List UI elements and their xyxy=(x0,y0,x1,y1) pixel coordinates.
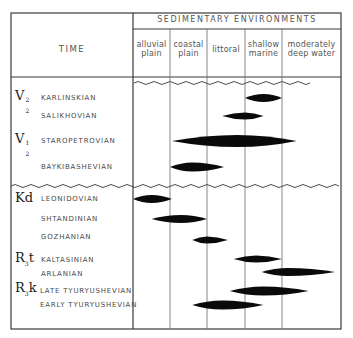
symbol-subscript: 2 xyxy=(25,150,29,157)
stage-karlinskian: KARLINSKIAN xyxy=(41,94,96,102)
symbol-letter: R xyxy=(15,250,25,265)
lens-salikhovian xyxy=(222,113,263,120)
column-header-alluvial-plain: alluvial plain xyxy=(133,40,170,58)
lens-gozhanian xyxy=(192,237,228,244)
unconformity-line-middle xyxy=(11,185,339,188)
column-header-line: marine xyxy=(245,49,282,58)
lens-early-tyuryushevian xyxy=(192,301,263,310)
symbol-superscript: 1 xyxy=(25,139,29,146)
stage-kaltasinian: KALTASINIAN xyxy=(41,256,94,264)
stage-staropetrovian: STAROPETROVIAN xyxy=(41,137,116,145)
column-header-line: coastal xyxy=(170,40,207,49)
stage-late-tyuryushevian: LATE TYURYUSHEVIAN xyxy=(40,287,132,295)
symbol-subscript: 2 xyxy=(25,107,29,114)
symbol-superscript: 2 xyxy=(25,96,29,103)
stage-baykibashevian: BAYKIBASHEVIAN xyxy=(41,163,113,171)
stage-early-tyuryushevian: EARLY TYURYUSHEVIAN xyxy=(40,301,137,309)
column-header-moderately-deep-water: moderately deep water xyxy=(282,40,341,58)
column-header-coastal-plain: coastal plain xyxy=(170,40,207,58)
symbol-letter: V xyxy=(15,88,24,103)
symbol-letter: Kd xyxy=(15,190,33,205)
lens-staropetrovian xyxy=(172,135,297,147)
column-dividers xyxy=(170,29,282,329)
lens-late-tyuryushevian xyxy=(230,287,309,296)
symbol-suffix: t xyxy=(29,250,34,265)
stage-salikhovian: SALIKHOVIAN xyxy=(41,112,97,120)
lens-baykibashevian xyxy=(170,163,224,172)
group-symbol-r3k: R3k xyxy=(15,280,37,297)
group-symbol-r3t: R3t xyxy=(15,250,34,267)
environments-heading: SEDIMENTARY ENVIRONMENTS xyxy=(133,15,341,24)
group-symbol-v2-2: V22 xyxy=(15,88,24,103)
group-symbol-v2-1: V12 xyxy=(15,131,24,146)
column-header-line: plain xyxy=(133,49,170,58)
symbol-letter: R xyxy=(15,280,25,295)
lens-arlanian xyxy=(262,268,335,276)
stage-gozhanian: GOZHANIAN xyxy=(41,233,91,241)
unconformity-line-top xyxy=(134,82,310,85)
symbol-letter: V xyxy=(15,131,24,146)
environment-lenses xyxy=(133,94,335,310)
stage-arlanian: ARLANIAN xyxy=(41,270,83,278)
column-header-shallow-marine: shallow marine xyxy=(245,40,282,58)
column-header-line: moderately xyxy=(282,40,341,49)
column-header-line: littoral xyxy=(207,45,245,54)
column-header-line: plain xyxy=(170,49,207,58)
stage-leonidovian: LEONIDOVIAN xyxy=(41,195,99,203)
group-symbol-kd: Kd xyxy=(15,190,33,205)
stage-shtandinian: SHTANDINIAN xyxy=(41,215,98,223)
lens-kaltasinian xyxy=(234,256,282,263)
time-heading: TIME xyxy=(11,44,133,54)
lens-leonidovian xyxy=(133,195,172,203)
column-header-line: deep water xyxy=(282,49,341,58)
column-header-line: alluvial xyxy=(133,40,170,49)
symbol-suffix: k xyxy=(29,280,37,295)
column-header-line: shallow xyxy=(245,40,282,49)
table-frame xyxy=(11,13,341,329)
column-header-littoral: littoral xyxy=(207,45,245,54)
lens-shtandinian xyxy=(152,215,208,223)
lens-karlinskian xyxy=(245,94,282,102)
